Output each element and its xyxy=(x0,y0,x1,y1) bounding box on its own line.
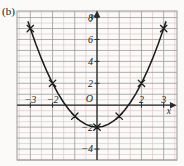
origin-label: O xyxy=(86,93,93,104)
x-tick-label: 3 xyxy=(160,94,166,105)
y-tick-label: 6 xyxy=(88,34,93,45)
x-tick-label: −2 xyxy=(47,94,59,105)
graph-figure: (b) −3−2238642−2−4Oyx xyxy=(0,0,184,166)
parabola-plot: −3−2238642−2−4Oyx xyxy=(0,0,184,166)
x-tick-label: 2 xyxy=(139,94,144,105)
y-tick-label: −4 xyxy=(81,143,93,154)
y-tick-label: 2 xyxy=(88,78,93,89)
y-tick-label: 4 xyxy=(88,56,93,67)
x-tick-label: −3 xyxy=(24,94,36,105)
panel-label: (b) xyxy=(2,5,15,17)
y-axis-label: y xyxy=(89,12,95,22)
x-axis-label: x xyxy=(166,106,172,116)
